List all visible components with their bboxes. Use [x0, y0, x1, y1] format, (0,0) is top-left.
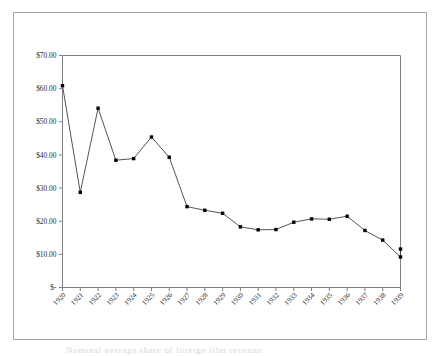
y-axis-tick-label: $- [50, 283, 57, 292]
y-axis-tick-label: $70.00 [36, 51, 57, 60]
caption-sliver: Nominal average share of foreign film re… [66, 345, 426, 355]
x-axis-tick-label: 1921 [69, 291, 85, 307]
data-point-marker [150, 135, 153, 138]
line-chart: $-$10.00$20.00$30.00$40.00$50.00$60.00$7… [0, 0, 437, 356]
y-axis-tick-label: $30.00 [36, 184, 57, 193]
x-axis-tick-label: 1931 [247, 291, 263, 307]
data-point-marker [256, 228, 259, 231]
x-axis-tick-label: 1922 [87, 291, 103, 307]
y-axis-tick-label: $10.00 [36, 250, 57, 259]
data-point-marker [345, 215, 348, 218]
data-point-marker [399, 255, 402, 258]
y-axis-tick-label: $60.00 [36, 84, 57, 93]
data-point-marker [203, 209, 206, 212]
data-point-marker [292, 221, 295, 224]
x-axis: 1920192119221923192419251926192719281929… [52, 288, 406, 308]
data-point-marker [61, 84, 64, 87]
data-point-marker [168, 156, 171, 159]
chart-page: $-$10.00$20.00$30.00$40.00$50.00$60.00$7… [0, 0, 437, 356]
data-point-marker [363, 229, 366, 232]
data-point-marker [79, 191, 82, 194]
y-axis: $-$10.00$20.00$30.00$40.00$50.00$60.00$7… [36, 51, 62, 292]
x-axis-tick-label: 1939 [390, 291, 406, 307]
data-point-marker [185, 205, 188, 208]
x-axis-tick-label: 1934 [301, 291, 317, 307]
data-point-marker [221, 212, 224, 215]
y-axis-tick-label: $20.00 [36, 217, 57, 226]
x-axis-tick-label: 1937 [354, 291, 370, 307]
x-axis-tick-label: 1938 [372, 291, 388, 307]
data-point-marker [328, 218, 331, 221]
data-line [63, 86, 401, 257]
x-axis-tick-label: 1930 [229, 291, 245, 307]
x-axis-tick-label: 1924 [123, 291, 139, 307]
x-axis-tick-label: 1929 [212, 291, 228, 307]
data-point-marker [274, 228, 277, 231]
data-point-marker [239, 225, 242, 228]
data-point-marker [114, 159, 117, 162]
y-axis-tick-label: $50.00 [36, 117, 57, 126]
data-point-marker [399, 247, 402, 250]
data-markers [61, 84, 402, 259]
data-point-marker [381, 238, 384, 241]
data-point-marker [132, 157, 135, 160]
x-axis-tick-label: 1936 [336, 291, 352, 307]
x-axis-tick-label: 1935 [318, 291, 334, 307]
data-point-marker [96, 107, 99, 110]
x-axis-tick-label: 1923 [105, 291, 121, 307]
x-axis-tick-label: 1933 [283, 291, 299, 307]
x-axis-tick-label: 1920 [52, 291, 68, 307]
data-point-marker [310, 217, 313, 220]
x-axis-tick-label: 1925 [141, 291, 157, 307]
x-axis-tick-label: 1926 [158, 291, 174, 307]
x-axis-tick-label: 1927 [176, 291, 192, 307]
y-axis-tick-label: $40.00 [36, 151, 57, 160]
plot-area-border [63, 56, 401, 288]
x-axis-tick-label: 1928 [194, 291, 210, 307]
x-axis-tick-label: 1932 [265, 291, 281, 307]
